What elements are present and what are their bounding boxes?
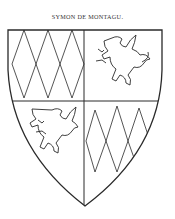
heraldic-shield: [0, 0, 175, 219]
griffin-icon: [96, 35, 150, 85]
shield-outline: [8, 30, 162, 206]
quarter-1-lozengy: [12, 30, 84, 98]
griffin-icon: [30, 107, 78, 153]
quarter-4-lozengy: [86, 106, 170, 172]
